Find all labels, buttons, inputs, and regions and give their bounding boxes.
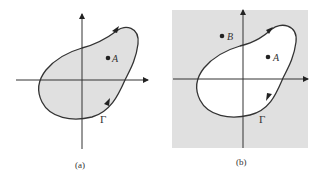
point-b-dot <box>220 34 225 39</box>
panel-b: B A Γ (b) <box>172 10 308 167</box>
panel-a: A Γ (a) <box>16 14 148 170</box>
gamma-label-b: Γ <box>259 113 265 125</box>
point-a-dot <box>106 56 111 61</box>
contour-gamma-a <box>39 27 139 119</box>
gamma-label-a: Γ <box>100 113 106 125</box>
point-a-label-b: A <box>272 52 280 63</box>
point-b-label: B <box>227 31 233 42</box>
caption-a: (a) <box>75 160 85 170</box>
point-a-dot-b <box>266 55 271 60</box>
caption-b: (b) <box>236 157 247 167</box>
figure-canvas: A Γ (a) B A Γ (b) <box>0 0 322 180</box>
point-a-label: A <box>111 53 119 64</box>
